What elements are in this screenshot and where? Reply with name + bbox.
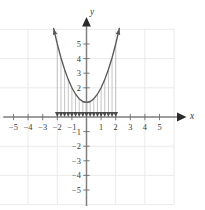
region-arrow — [102, 80, 107, 117]
x-tick-label: −4 — [24, 123, 34, 132]
x-tick-label: −2 — [53, 123, 62, 132]
region-arrow — [66, 80, 71, 117]
x-tick-label: −3 — [38, 123, 47, 132]
region-arrow — [110, 58, 115, 117]
axes — [3, 17, 186, 206]
region-arrow — [59, 58, 64, 117]
region-arrow — [77, 99, 82, 117]
region-arrow — [113, 44, 118, 117]
region-arrow — [81, 101, 86, 117]
x-tick-label: 5 — [157, 123, 161, 132]
region-arrow — [84, 102, 89, 117]
x-tick-label: 4 — [143, 123, 148, 132]
y-tick-label: 4 — [77, 55, 82, 64]
coordinate-plane-graph: −5−4−3−2−112345 5432−1−2−3−4−5 x y — [0, 0, 205, 210]
x-axis-label: x — [189, 111, 195, 121]
region-arrow — [88, 101, 93, 117]
y-tick-label: −3 — [72, 157, 81, 166]
x-tick-label: −5 — [9, 123, 18, 132]
x-tick-label: 2 — [114, 123, 118, 132]
graph-figure: −5−4−3−2−112345 5432−1−2−3−4−5 x y — [0, 0, 205, 210]
y-tick-label: −2 — [72, 142, 81, 151]
y-tick-label: −4 — [72, 171, 82, 180]
y-tick-label: 2 — [77, 84, 81, 93]
y-axis-label: y — [89, 7, 95, 17]
x-tick-labels: −5−4−3−2−112345 — [9, 123, 162, 132]
region-arrow — [106, 70, 111, 117]
y-tick-label: −1 — [72, 128, 81, 137]
x-tick-label: 1 — [99, 123, 103, 132]
region-arrow — [95, 94, 100, 117]
x-tick-label: 3 — [128, 123, 132, 132]
region-arrow — [62, 70, 67, 117]
y-tick-label: 5 — [77, 40, 81, 49]
region-arrow — [55, 44, 60, 117]
y-tick-label: −5 — [72, 186, 81, 195]
y-tick-label: 3 — [77, 69, 81, 78]
region-arrow — [91, 99, 96, 117]
region-arrow — [73, 94, 78, 117]
